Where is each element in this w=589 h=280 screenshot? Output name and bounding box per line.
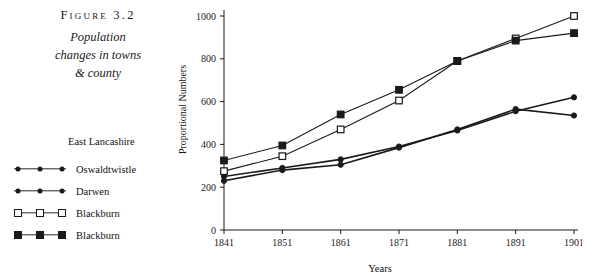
dot-marker-icon <box>38 189 43 194</box>
dot-marker-icon <box>16 189 21 194</box>
square-filled-marker-icon <box>396 87 403 94</box>
legend-key-line-square-filled <box>14 229 66 241</box>
legend-key-line-dot <box>14 185 66 197</box>
figure-root: Figure 3.2 Population changes in towns &… <box>0 0 589 280</box>
legend-item-blackburn-open: Blackburn <box>14 202 184 224</box>
dot-marker-icon <box>60 167 65 172</box>
dot-marker-icon <box>338 162 343 167</box>
square-open-marker-icon <box>36 209 44 217</box>
dot-marker-icon <box>38 167 43 172</box>
legend-key-line-square-open <box>14 207 66 219</box>
dot-marker-icon <box>60 189 65 194</box>
square-filled-marker-icon <box>14 231 22 239</box>
legend-item-oswaldtwistle: Oswaldtwistle <box>14 158 184 180</box>
square-open-marker-icon <box>571 13 578 20</box>
y-tick-label: 0 <box>211 225 216 236</box>
square-open-marker-icon <box>221 168 228 175</box>
y-tick-label: 400 <box>201 139 216 150</box>
y-tick-label: 1000 <box>196 11 216 22</box>
dot-marker-icon <box>338 157 343 162</box>
square-open-marker-icon <box>58 209 66 217</box>
dot-marker-icon <box>455 128 460 133</box>
dot-marker-icon <box>396 144 401 149</box>
square-open-marker-icon <box>14 209 22 217</box>
figure-caption: Figure 3.2 Population changes in towns &… <box>18 8 178 82</box>
x-tick-label: 1891 <box>506 237 526 248</box>
plot-svg: 0200400600800100018411851186118711881189… <box>178 4 582 262</box>
x-tick-label: 1901 <box>564 237 582 248</box>
x-tick-label: 1881 <box>447 237 467 248</box>
y-axis-label-text: Proportional Numbers <box>178 64 189 153</box>
y-axis-label: Proportional Numbers <box>176 4 190 214</box>
dot-marker-icon <box>16 167 21 172</box>
square-filled-marker-icon <box>279 142 286 149</box>
square-filled-marker-icon <box>221 157 228 164</box>
figure-number: Figure 3.2 <box>18 8 178 23</box>
legend-label: Blackburn <box>66 230 120 241</box>
square-filled-marker-icon <box>337 111 344 118</box>
legend-label: Oswaldtwistle <box>66 164 136 175</box>
x-tick-label: 1861 <box>331 237 351 248</box>
legend-key-line-dot <box>14 163 66 175</box>
y-tick-label: 200 <box>201 182 216 193</box>
series-line <box>224 97 574 176</box>
y-tick-label: 800 <box>201 53 216 64</box>
legend-title: East Lancashire <box>68 136 184 147</box>
chart-area: Proportional Numbers 0200400600800100018… <box>178 4 582 276</box>
chart-legend: East Lancashire Oswaldtwistle Darwen <box>14 136 184 246</box>
square-filled-marker-icon <box>36 231 44 239</box>
square-open-marker-icon <box>279 153 286 160</box>
dot-marker-icon <box>571 113 576 118</box>
x-axis-label: Years <box>178 263 582 274</box>
x-tick-label: 1871 <box>389 237 409 248</box>
square-open-marker-icon <box>337 126 344 133</box>
legend-label: Blackburn <box>66 208 120 219</box>
caption-line-3: & county <box>18 64 178 82</box>
legend-label: Darwen <box>66 186 109 197</box>
y-tick-label: 600 <box>201 96 216 107</box>
square-open-marker-icon <box>396 97 403 104</box>
axis-lines <box>224 10 578 230</box>
dot-marker-icon <box>571 95 576 100</box>
square-filled-marker-icon <box>58 231 66 239</box>
dot-marker-icon <box>280 165 285 170</box>
caption-line-2: changes in towns <box>18 46 178 64</box>
x-tick-label: 1851 <box>272 237 292 248</box>
square-filled-marker-icon <box>571 30 578 37</box>
x-tick-label: 1841 <box>214 237 234 248</box>
legend-item-blackburn-filled: Blackburn <box>14 224 184 246</box>
series-darwen-1 <box>221 95 576 179</box>
legend-item-darwen: Darwen <box>14 180 184 202</box>
caption-line-1: Population <box>18 28 178 46</box>
dot-marker-icon <box>513 109 518 114</box>
square-filled-marker-icon <box>512 37 519 44</box>
square-filled-marker-icon <box>454 58 461 65</box>
